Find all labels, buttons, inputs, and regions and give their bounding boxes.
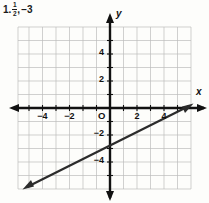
y-tick-label-2: 2 bbox=[90, 74, 104, 84]
label-separator: , bbox=[17, 4, 20, 15]
y-tick-label-neg4: −4 bbox=[85, 155, 104, 165]
graph-figure: 1. 1 2 , −3 y x O −4 −2 2 4 4 2 −2 −4 bbox=[0, 0, 209, 203]
x-tick-label-4: 4 bbox=[157, 111, 171, 121]
origin-label: O bbox=[98, 110, 105, 121]
y-tick-label-4: 4 bbox=[90, 47, 104, 57]
x-tick-label-neg2: −2 bbox=[61, 111, 78, 121]
x-axis-label: x bbox=[196, 86, 202, 97]
problem-label: 1. 1 2 , −3 bbox=[3, 2, 33, 17]
y-axis-label: y bbox=[116, 8, 122, 19]
coordinate-plane bbox=[0, 0, 209, 203]
intercept-value: −3 bbox=[21, 4, 32, 15]
y-tick-label-neg2: −2 bbox=[85, 128, 104, 138]
x-tick-label-2: 2 bbox=[130, 111, 144, 121]
problem-number: 1. bbox=[3, 4, 11, 15]
x-tick-label-neg4: −4 bbox=[34, 111, 51, 121]
fraction-denominator: 2 bbox=[13, 11, 18, 18]
slope-fraction: 1 2 bbox=[12, 2, 17, 17]
fraction-numerator: 1 bbox=[13, 2, 18, 9]
